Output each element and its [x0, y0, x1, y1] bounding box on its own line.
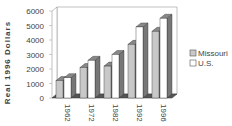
bar-missouri-1962	[56, 81, 63, 98]
y-axis-label: Real 1996 Dollars	[3, 21, 12, 104]
y-tick-label: 4000	[26, 36, 44, 45]
x-tick-label: 1982	[111, 104, 120, 122]
bar-missouri-1982	[104, 66, 111, 98]
bar-us-1996	[160, 18, 167, 98]
legend-swatch	[190, 60, 196, 66]
x-tick-label: 1962	[63, 104, 72, 122]
bar-missouri-1992	[128, 44, 135, 98]
y-tick-label: 0	[40, 94, 45, 103]
y-tick-label: 2000	[26, 65, 44, 74]
x-tick-label: 1972	[87, 104, 96, 122]
legend-label: Missouri	[198, 49, 228, 58]
bar-missouri-1972	[80, 68, 87, 98]
x-tick-label: 1996	[159, 104, 168, 122]
bar-us-1972	[88, 60, 95, 98]
bar-us-1992	[136, 27, 143, 98]
legend-swatch	[190, 50, 196, 56]
bar-chart: 0100020003000400050006000Real 1996 Dolla…	[0, 0, 232, 126]
y-tick-label: 3000	[26, 51, 44, 60]
x-tick-label: 1992	[135, 104, 144, 122]
bar-missouri-1996	[152, 31, 159, 98]
y-tick-label: 6000	[26, 7, 44, 16]
legend-label: U.S.	[198, 59, 214, 68]
y-tick-label: 1000	[26, 80, 44, 89]
bar-us-1982	[112, 55, 119, 99]
bar-us-1962	[64, 78, 71, 98]
y-tick-label: 5000	[26, 22, 44, 31]
